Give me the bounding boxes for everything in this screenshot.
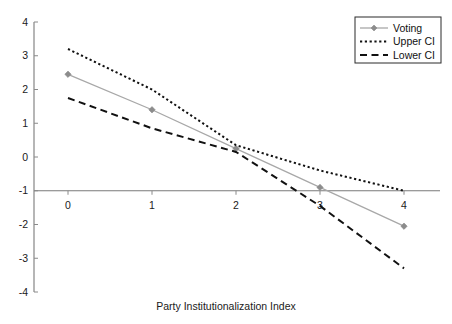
x-tick-label: 2 xyxy=(233,199,239,211)
legend-label: Upper CI xyxy=(393,35,435,47)
y-tick-label: 0 xyxy=(22,151,28,163)
chart-container: 43210-1-2-3-4 01234 VotingUpper CILower … xyxy=(0,0,452,324)
x-axis-title: Party Institutionalization Index xyxy=(156,300,296,312)
y-tick-label: -2 xyxy=(19,218,28,230)
x-tick-label: 1 xyxy=(149,199,155,211)
y-tick-label: 1 xyxy=(22,117,28,129)
legend-label: Lower CI xyxy=(393,49,435,61)
y-tick-label: -3 xyxy=(19,252,28,264)
chart-legend: VotingUpper CILower CI xyxy=(355,17,441,63)
y-tick-label: -1 xyxy=(19,184,28,196)
x-tick-label: 4 xyxy=(401,199,407,211)
x-tick-label: 0 xyxy=(65,199,71,211)
y-tick-label: 4 xyxy=(22,16,28,28)
y-tick-label: 2 xyxy=(22,83,28,95)
y-tick-label: 3 xyxy=(22,49,28,61)
y-tick-label: -4 xyxy=(19,286,28,298)
line-chart: 43210-1-2-3-4 01234 VotingUpper CILower … xyxy=(0,0,452,324)
legend-label: Voting xyxy=(393,22,422,34)
x-tick-label: 3 xyxy=(317,199,323,211)
